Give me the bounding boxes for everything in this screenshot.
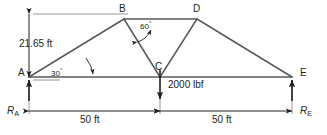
vertex-label-A: A	[18, 68, 25, 78]
angle-label-60-degrees: 60°	[140, 20, 151, 31]
truss-diagram: A B C D E 21.65 ft 30° 60° 2000 lbf RA R…	[0, 0, 327, 135]
height-dimension-label: 21.65 ft	[19, 39, 52, 49]
angle-30-degree-symbol: °	[60, 67, 62, 73]
load-label-2000-lbf: 2000 lbf	[168, 80, 204, 90]
vertex-label-E: E	[300, 68, 307, 78]
angle-60-value: 60	[140, 22, 149, 31]
reaction-RE-subscript: E	[307, 110, 312, 117]
reaction-label-RA: RA	[7, 106, 19, 116]
reaction-label-RE: RE	[300, 106, 312, 116]
angle-60-degree-symbol: °	[149, 20, 151, 26]
member-D-E	[197, 19, 292, 77]
reaction-RA-subscript: A	[14, 110, 19, 117]
truss-diagram-canvas	[0, 0, 327, 135]
vertex-label-B: B	[119, 4, 126, 14]
angle-arc-60-degrees	[137, 30, 151, 42]
member-C-D	[160, 19, 197, 77]
span-dimension-label-right: 50 ft	[212, 115, 231, 125]
vertex-label-C: C	[155, 62, 162, 72]
angle-30-value: 30	[51, 69, 60, 78]
vertex-label-D: D	[193, 4, 200, 14]
span-dimension-label-left: 50 ft	[80, 115, 99, 125]
angle-label-30-degrees: 30°	[51, 67, 62, 78]
angle-arc-30-degrees	[86, 58, 93, 74]
